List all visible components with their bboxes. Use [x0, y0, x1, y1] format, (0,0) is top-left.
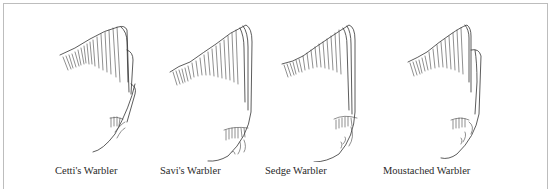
- caption-savis-warbler: Savi's Warbler: [160, 165, 221, 176]
- caption-cettis-warbler: Cetti's Warbler: [55, 165, 117, 176]
- wing-illustration-cettis-warbler: [55, 22, 150, 157]
- caption-sedge-warbler: Sedge Warbler: [265, 165, 327, 176]
- wing-illustration-savis-warbler: [168, 22, 263, 162]
- wing-illustration-sedge-warbler: [279, 22, 374, 162]
- caption-moustached-warbler: Moustached Warbler: [383, 165, 470, 176]
- wing-illustration-moustached-warbler: [405, 22, 500, 162]
